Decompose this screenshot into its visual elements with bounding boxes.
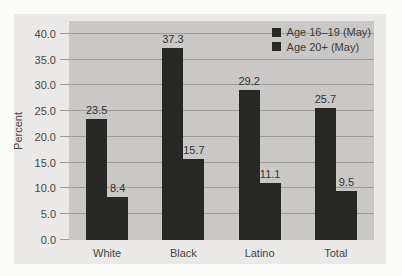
legend-row-1: Age 16–19 (May) <box>272 26 371 39</box>
category-group-white: 23.58.4White <box>69 21 145 240</box>
y-tick-25.0 <box>60 110 69 111</box>
chart-figure: Percent 0.05.010.015.020.025.030.035.040… <box>14 14 386 264</box>
bar-black-series-2: 15.7 <box>183 159 204 240</box>
y-tick-label-10.0: 10.0 <box>35 183 56 194</box>
bar-total-series-2: 9.5 <box>336 191 357 240</box>
y-tick-label-35.0: 35.0 <box>35 54 56 65</box>
bars-layer: 23.58.4White37.315.7Black29.211.1Latino2… <box>69 21 374 240</box>
legend-swatch-icon <box>272 28 281 37</box>
y-tick-40.0 <box>60 33 69 34</box>
category-group-total: 25.79.5Total <box>298 21 374 240</box>
value-label-white-series-1: 23.5 <box>86 105 107 116</box>
bar-latino-series-2: 11.1 <box>260 183 281 240</box>
x-tick-label-latino: Latino <box>245 247 275 259</box>
value-label-latino-series-1: 29.2 <box>238 76 259 87</box>
y-tick-label-40.0: 40.0 <box>35 28 56 39</box>
category-group-black: 37.315.7Black <box>145 21 221 240</box>
value-label-black-series-2: 15.7 <box>183 145 204 156</box>
bar-total-series-1: 25.7 <box>315 108 336 240</box>
plot-area: Percent 0.05.010.015.020.025.030.035.040… <box>69 21 374 240</box>
bar-white-series-2: 8.4 <box>107 197 128 240</box>
y-axis-title: Percent <box>12 112 24 150</box>
y-tick-label-0.0: 0.0 <box>41 235 56 246</box>
category-group-latino: 29.211.1Latino <box>222 21 298 240</box>
y-tick-35.0 <box>60 59 69 60</box>
legend: Age 16–19 (May)Age 20+ (May) <box>272 26 371 53</box>
legend-label-2: Age 20+ (May) <box>287 41 359 54</box>
y-tick-label-30.0: 30.0 <box>35 80 56 91</box>
x-tick-label-total: Total <box>324 247 347 259</box>
legend-label-1: Age 16–19 (May) <box>287 26 371 39</box>
y-tick-20.0 <box>60 136 69 137</box>
x-tick-label-white: White <box>93 247 121 259</box>
value-label-latino-series-2: 11.1 <box>260 169 281 180</box>
y-tick-15.0 <box>60 162 69 163</box>
value-label-total-series-1: 25.7 <box>315 94 336 105</box>
y-tick-label-15.0: 15.0 <box>35 157 56 168</box>
y-tick-label-5.0: 5.0 <box>41 209 56 220</box>
legend-row-2: Age 20+ (May) <box>272 41 371 54</box>
legend-swatch-icon <box>272 42 281 51</box>
y-tick-10.0 <box>60 187 69 188</box>
y-tick-30.0 <box>60 84 69 85</box>
y-tick-label-25.0: 25.0 <box>35 106 56 117</box>
y-tick-0.0 <box>60 239 69 240</box>
x-tick-label-black: Black <box>170 247 197 259</box>
y-tick-5.0 <box>60 213 69 214</box>
bar-white-series-1: 23.5 <box>86 119 107 240</box>
bar-latino-series-1: 29.2 <box>239 90 260 240</box>
value-label-white-series-2: 8.4 <box>110 183 125 194</box>
value-label-total-series-2: 9.5 <box>339 177 354 188</box>
y-tick-label-20.0: 20.0 <box>35 131 56 142</box>
value-label-black-series-1: 37.3 <box>162 34 183 45</box>
bar-black-series-1: 37.3 <box>162 48 183 240</box>
